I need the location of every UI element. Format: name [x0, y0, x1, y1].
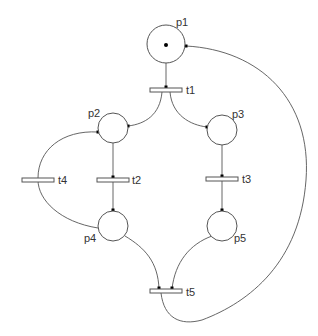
arc-t4-p2 — [38, 132, 98, 178]
arc-t1-p2 — [128, 92, 162, 126]
arc-p4-t4 — [38, 180, 98, 228]
petri-net-diagram: p1 p2 p3 p4 p5 t1 t2 t3 t4 t5 — [0, 0, 318, 336]
place-label: p3 — [232, 108, 244, 120]
transition-label: t4 — [58, 174, 67, 186]
transition-label: t5 — [186, 286, 195, 298]
place-p3[interactable]: p3 — [207, 108, 244, 145]
transition-t1[interactable]: t1 — [150, 84, 195, 96]
transition-label: t2 — [132, 174, 141, 186]
place-label: p5 — [234, 232, 246, 244]
transition-label: t3 — [242, 173, 251, 185]
transition-t2[interactable]: t2 — [97, 174, 141, 186]
place-p4[interactable]: p4 — [84, 211, 128, 244]
place-label: p2 — [88, 107, 100, 119]
token-icon — [164, 43, 168, 47]
place-label: p1 — [176, 16, 188, 28]
transition-t3[interactable]: t3 — [206, 173, 251, 185]
place-p2[interactable]: p2 — [88, 107, 128, 143]
arc-p4-t5 — [125, 236, 159, 289]
transition-label: t1 — [186, 84, 195, 96]
place-label: p4 — [84, 232, 96, 244]
transition-t4[interactable]: t4 — [22, 174, 67, 186]
place-p5[interactable]: p5 — [207, 211, 246, 244]
arc-t1-p3 — [170, 92, 207, 127]
arcs — [37, 45, 307, 322]
arc-p5-t5 — [172, 236, 212, 289]
arc-t5-p1 — [161, 46, 306, 322]
place-p1[interactable]: p1 — [147, 16, 188, 63]
